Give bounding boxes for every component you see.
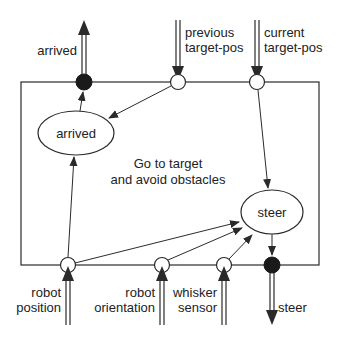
previous-target-pos-label-line1: previous <box>185 25 235 40</box>
module-title-line1: Go to target <box>134 156 203 171</box>
robot-position-label-line2: position <box>16 300 61 315</box>
robot-orientation-input-port[interactable] <box>155 258 170 326</box>
robot-orientation-label-line1: robot <box>125 285 155 300</box>
filled-port-icon <box>76 74 92 90</box>
open-port-icon <box>171 75 186 90</box>
edge-position-to-steer <box>75 222 239 263</box>
steer-output-label: steer <box>278 300 308 315</box>
whisker-sensor-label-line1: whisker <box>172 285 218 300</box>
arrow-up-icon <box>78 20 90 35</box>
edge-position-to-arrived <box>68 157 74 257</box>
robot-position-input-port[interactable] <box>61 258 76 326</box>
steer-node[interactable]: steer <box>241 190 303 234</box>
edge-previous-to-arrived <box>109 86 171 118</box>
robot-position-label-line1: robot <box>31 285 61 300</box>
arrived-node[interactable]: arrived <box>38 111 114 155</box>
arrived-node-label: arrived <box>56 126 96 141</box>
arrived-output-label: arrived <box>37 43 77 58</box>
current-target-pos-label-line2: target-pos <box>264 40 323 55</box>
current-target-pos-input-port[interactable] <box>250 20 265 90</box>
arrow-down-icon <box>266 310 278 325</box>
current-target-pos-label-line1: current <box>264 25 305 40</box>
open-port-icon <box>250 75 265 90</box>
edge-arrived-to-output <box>80 92 83 111</box>
whisker-sensor-input-port[interactable] <box>217 258 232 326</box>
edge-orientation-to-steer <box>168 228 242 260</box>
robot-orientation-label-line2: orientation <box>94 300 155 315</box>
previous-target-pos-label-line2: target-pos <box>185 40 244 55</box>
filled-port-icon <box>264 257 280 273</box>
edge-whisker-to-steer <box>229 235 252 259</box>
arrived-output-port[interactable] <box>76 20 92 90</box>
edge-current-to-steer <box>258 90 268 188</box>
behavior-diagram: Go to target and avoid obstacles arrived… <box>0 0 338 343</box>
previous-target-pos-input-port[interactable] <box>171 20 186 90</box>
module-title-line2: and avoid obstacles <box>111 172 226 187</box>
steer-node-label: steer <box>258 205 288 220</box>
whisker-sensor-label-line2: sensor <box>178 300 218 315</box>
